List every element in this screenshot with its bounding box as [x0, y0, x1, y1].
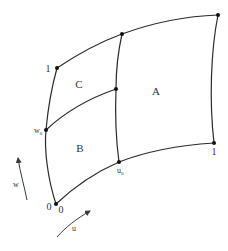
right-boundary-curve — [211, 15, 218, 143]
u0-point — [117, 160, 121, 164]
surface-patch-diagram: A B C 1 0 0 1 w0 u0 w u — [0, 0, 228, 251]
left-boundary-curve — [45, 68, 57, 204]
top-right-point — [216, 13, 220, 17]
intersection-point — [114, 87, 118, 91]
u-axis-label: u — [72, 224, 76, 233]
w-max-label: 1 — [46, 63, 51, 74]
u0-isoparametric-curve — [116, 34, 122, 162]
w-axis-label: w — [13, 180, 19, 189]
w0-point — [44, 128, 48, 132]
region-label-c: C — [75, 78, 82, 90]
u1-point — [212, 141, 216, 145]
u0-label: u0 — [117, 166, 124, 176]
origin-point — [54, 202, 58, 206]
top-boundary-curve — [57, 15, 218, 68]
w0-isoparametric-curve — [46, 89, 116, 130]
origin-u-label: 0 — [59, 204, 64, 215]
w-direction-arrow — [18, 158, 27, 200]
w0-label: w0 — [34, 126, 43, 136]
region-label-a: A — [152, 85, 160, 97]
region-label-b: B — [76, 142, 83, 154]
origin-w-label: 0 — [47, 201, 52, 212]
top-mid-point — [120, 32, 124, 36]
u-max-label: 1 — [212, 146, 217, 157]
w1-point — [55, 66, 59, 70]
